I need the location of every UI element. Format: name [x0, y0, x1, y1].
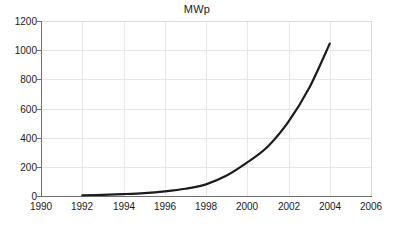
- y-axis-tick-mark: [37, 138, 41, 139]
- y-axis-tick-mark: [37, 109, 41, 110]
- y-axis-tick-label: 0: [3, 191, 37, 202]
- y-axis-tick-mark: [37, 167, 41, 168]
- y-axis-tick-mark: [37, 50, 41, 51]
- x-axis-tick-label: 2006: [349, 201, 393, 212]
- chart-container: MWp 020040060080010001200 19901992199419…: [0, 0, 394, 226]
- y-axis-tick-labels: 020040060080010001200: [0, 0, 37, 226]
- y-axis-tick-mark: [37, 79, 41, 80]
- y-axis-tick-label: 400: [3, 133, 37, 144]
- y-axis-tick-label: 200: [3, 162, 37, 173]
- x-axis-tick-label: 1990: [19, 201, 63, 212]
- y-axis-tick-mark: [37, 21, 41, 22]
- y-axis-tick-label: 600: [3, 104, 37, 115]
- y-axis-tick-label: 1000: [3, 45, 37, 56]
- x-axis-tick-label: 1996: [143, 201, 187, 212]
- series-line-mwp: [41, 21, 371, 196]
- y-axis-tick-label: 1200: [3, 16, 37, 27]
- x-axis-tick-label: 2002: [267, 201, 311, 212]
- x-axis-tick-label: 1992: [60, 201, 104, 212]
- x-axis-tick-label: 2004: [308, 201, 352, 212]
- x-axis-tick-label: 2000: [225, 201, 269, 212]
- axis-right-line: [371, 21, 372, 197]
- series-path: [82, 44, 330, 196]
- x-axis-tick-label: 1998: [184, 201, 228, 212]
- chart-title: MWp: [0, 3, 394, 15]
- y-axis-tick-mark: [37, 196, 41, 197]
- x-axis-tick-label: 1994: [102, 201, 146, 212]
- y-axis-tick-label: 800: [3, 74, 37, 85]
